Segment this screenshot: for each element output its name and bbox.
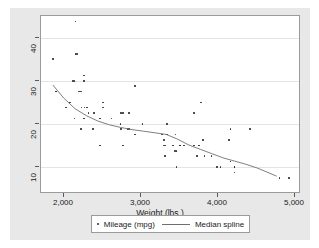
graph-region: 40 30 20 10 2,000 3,000 4,000 5,000 Weig… (10, 8, 310, 240)
legend-entry-spline: Median spline (162, 220, 244, 229)
xtick-mark-4000 (217, 193, 218, 197)
ytick-label-10: 10 (29, 167, 38, 189)
plot-area (40, 15, 300, 193)
xtick-label-3000: 3,000 (120, 198, 160, 207)
xtick-mark-2000 (63, 193, 64, 197)
legend-label-spline: Median spline (195, 220, 244, 229)
ytick-label-30: 30 (29, 81, 38, 103)
xtick-mark-3000 (140, 193, 141, 197)
xtick-label-2000: 2,000 (43, 198, 83, 207)
xtick-label-4000: 4,000 (197, 198, 237, 207)
legend-line-icon (162, 224, 190, 225)
ytick-label-40: 40 (29, 38, 38, 60)
legend-dot-icon (97, 223, 99, 225)
xtick-mark-5000 (294, 193, 295, 197)
legend-entry-mileage: Mileage (mpg) (97, 220, 155, 229)
median-spline-line (41, 16, 299, 192)
ytick-label-20: 20 (29, 124, 38, 146)
legend-label-mileage: Mileage (mpg) (104, 220, 155, 229)
legend: Mileage (mpg) Median spline (91, 215, 250, 233)
xtick-label-5000: 5,000 (274, 198, 314, 207)
